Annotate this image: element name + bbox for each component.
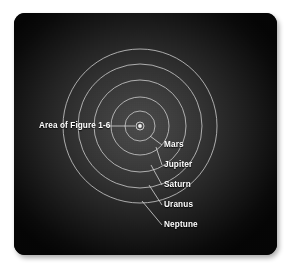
- leader-line-mars: [150, 136, 162, 145]
- leader-line-saturn: [151, 165, 162, 185]
- orbit-diagram-svg: [14, 13, 277, 255]
- planet-label-uranus: Uranus: [164, 201, 193, 209]
- planet-label-jupiter: Jupiter: [164, 161, 192, 169]
- figure-root: Area of Figure 1-6 Mars Jupiter Saturn U…: [0, 0, 291, 270]
- sky-panel: Area of Figure 1-6 Mars Jupiter Saturn U…: [14, 13, 277, 255]
- planet-label-saturn: Saturn: [164, 181, 191, 189]
- planet-label-neptune: Neptune: [164, 221, 198, 229]
- leader-line-neptune: [142, 201, 162, 225]
- planet-label-mars: Mars: [164, 141, 184, 149]
- area-of-figure-label: Area of Figure 1-6: [39, 122, 110, 130]
- leader-line-jupiter: [156, 147, 162, 165]
- sun-dot-icon: [138, 124, 142, 128]
